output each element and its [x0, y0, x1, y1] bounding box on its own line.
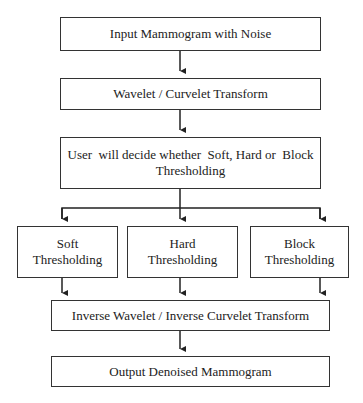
node-block-label: Block Thresholding [263, 236, 336, 268]
node-input-label: Input Mammogram with Noise [110, 26, 271, 42]
node-decision: User will decide whether Soft, Hard or B… [60, 137, 321, 189]
node-output: Output Denoised Mammogram [51, 356, 330, 387]
node-transform-label: Wavelet / Curvelet Transform [113, 86, 268, 102]
node-inverse-label: Inverse Wavelet / Inverse Curvelet Trans… [72, 308, 309, 324]
node-block: Block Thresholding [250, 226, 349, 278]
node-output-label: Output Denoised Mammogram [109, 364, 271, 380]
connector-arrows [0, 0, 363, 403]
node-inverse: Inverse Wavelet / Inverse Curvelet Trans… [51, 300, 330, 331]
node-input: Input Mammogram with Noise [60, 17, 321, 51]
node-soft: Soft Thresholding [17, 226, 118, 278]
node-transform: Wavelet / Curvelet Transform [60, 78, 321, 110]
node-decision-label: User will decide whether Soft, Hard or B… [67, 147, 314, 179]
node-hard: Hard Thresholding [127, 226, 238, 278]
node-hard-label: Hard Thresholding [146, 236, 219, 268]
node-soft-label: Soft Thresholding [32, 236, 103, 268]
